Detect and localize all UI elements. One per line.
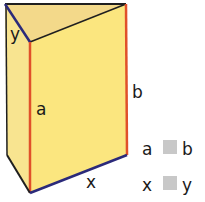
label-y: y (10, 24, 20, 44)
edge-back-left (6, 5, 7, 155)
legend-row1-right: b (182, 139, 193, 159)
legend-row1-box (163, 140, 177, 154)
legend-row1-left: a (142, 139, 152, 159)
label-a: a (36, 99, 46, 119)
legend: a b x y (142, 139, 193, 195)
legend-row2-right: y (182, 175, 192, 195)
edge-b (126, 4, 127, 155)
legend-row2-left: x (142, 175, 152, 195)
label-b: b (132, 82, 143, 102)
legend-row2-box (163, 176, 177, 190)
prism-diagram: y b a x a b x y (0, 0, 205, 202)
label-x: x (86, 172, 96, 192)
